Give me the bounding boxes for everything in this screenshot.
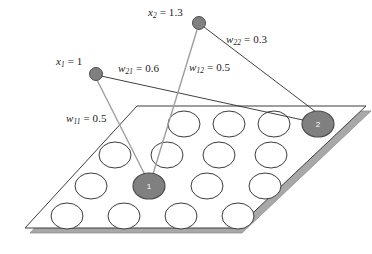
- label-x1-eq: =: [65, 55, 77, 67]
- input-node-x1[interactable]: [90, 68, 103, 81]
- label-w12: w12 = 0.5: [189, 61, 230, 73]
- label-x1: x1 = 1: [56, 55, 82, 67]
- label-w11-value: 0.5: [93, 112, 107, 124]
- label-w21-eq: =: [133, 62, 145, 74]
- label-w11-eq: =: [81, 112, 93, 124]
- label-w22-sub: 22: [233, 38, 241, 47]
- label-w11: w11 = 0.5: [66, 112, 107, 124]
- map-unit[interactable]: [168, 111, 200, 137]
- map-unit[interactable]: [258, 111, 290, 137]
- label-w21-value: 0.6: [145, 62, 159, 74]
- map-unit[interactable]: [255, 142, 287, 168]
- label-w12-value: 0.5: [216, 61, 230, 73]
- som-figure: 1 2 x1 = 1 x2 = 1.3 w11 = 0.5 w21 = 0.6 …: [0, 0, 372, 254]
- label-x1-sub: 1: [61, 60, 65, 69]
- label-w21-sub: 21: [125, 67, 133, 76]
- map-unit[interactable]: [99, 142, 131, 168]
- map-unit[interactable]: [249, 173, 281, 199]
- label-w22: w22 = 0.3: [226, 33, 267, 45]
- label-x2: x2 = 1.3: [148, 6, 183, 18]
- map-unit-1[interactable]: [133, 173, 165, 199]
- map-unit[interactable]: [213, 111, 245, 137]
- diagram-canvas: [0, 0, 372, 254]
- label-w22-eq: =: [241, 33, 253, 45]
- label-x1-value: 1: [77, 55, 83, 67]
- map-unit[interactable]: [75, 173, 107, 199]
- label-w22-value: 0.3: [253, 33, 267, 45]
- map-unit[interactable]: [222, 203, 254, 229]
- map-unit[interactable]: [51, 203, 83, 229]
- label-w12-sub: 12: [196, 66, 204, 75]
- label-x2-value: 1.3: [169, 6, 183, 18]
- map-unit[interactable]: [203, 142, 235, 168]
- map-unit-2[interactable]: [302, 111, 334, 137]
- map-unit[interactable]: [165, 203, 197, 229]
- label-w11-sub: 11: [73, 117, 80, 126]
- label-w12-eq: =: [204, 61, 216, 73]
- map-unit[interactable]: [108, 203, 140, 229]
- label-x2-eq: =: [157, 6, 169, 18]
- map-unit[interactable]: [191, 173, 223, 199]
- label-w21: w21 = 0.6: [118, 62, 159, 74]
- input-node-x2[interactable]: [193, 17, 206, 30]
- label-x2-sub: 2: [153, 11, 157, 20]
